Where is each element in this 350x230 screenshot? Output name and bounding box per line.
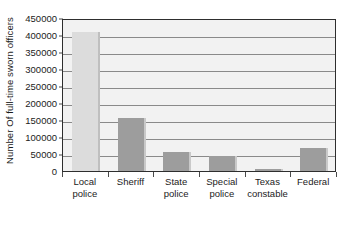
y-tick-label: 150000 [25, 116, 57, 126]
x-tick-label: Statepolice [164, 176, 189, 199]
y-tick-label: 400000 [25, 31, 57, 41]
y-axis-tick-labels: 0500001000001500002000002500003000003500… [18, 14, 60, 180]
y-tick-label: 100000 [25, 133, 57, 143]
x-tick-label-line: police [72, 188, 97, 200]
x-tick-label-line: Special [206, 176, 237, 188]
x-axis-tick-labels: LocalpoliceSheriffStatepoliceSpecialpoli… [62, 176, 336, 216]
x-tick-label: Specialpolice [206, 176, 237, 199]
bar-body [118, 118, 146, 171]
bar[interactable] [255, 169, 283, 171]
x-tick-label-line: constable [247, 188, 288, 200]
bar[interactable] [72, 32, 100, 171]
bar-body [209, 156, 237, 171]
x-tick-label-line: Sheriff [117, 176, 144, 188]
bar[interactable] [209, 156, 237, 171]
y-axis-title: Number Of full-time sworn officers [0, 0, 18, 180]
plot-area [62, 19, 336, 172]
bar[interactable] [163, 152, 191, 171]
bar-body [163, 152, 191, 171]
y-tick-label: 50000 [31, 150, 57, 160]
x-tick-label: Texasconstable [247, 176, 288, 199]
y-tick-label: 250000 [25, 82, 57, 92]
x-tick-label: Federal [297, 176, 329, 188]
bars-layer [63, 20, 335, 171]
bar[interactable] [300, 148, 328, 171]
bar-body [300, 148, 328, 171]
bar-body [72, 32, 100, 171]
y-tick-label: 300000 [25, 65, 57, 75]
y-tick-label: 200000 [25, 99, 57, 109]
bar-chart-screenshot: Number Of full-time sworn officers 05000… [0, 0, 350, 230]
x-tick-label-line: Texas [247, 176, 288, 188]
bar[interactable] [118, 118, 146, 171]
x-tick-label: Sheriff [117, 176, 144, 188]
y-tick-label: 450000 [25, 14, 57, 24]
x-tick-label-line: police [206, 188, 237, 200]
y-tick-label: 350000 [25, 48, 57, 58]
x-tick-label-line: State [164, 176, 189, 188]
bar-body [255, 169, 283, 171]
y-tick-label: 0 [52, 167, 57, 177]
y-axis-title-text: Number Of full-time sworn officers [4, 17, 15, 164]
x-tick-label-line: Local [72, 176, 97, 188]
x-tick-label-line: police [164, 188, 189, 200]
x-tick-mark [336, 172, 337, 177]
x-tick-label: Localpolice [72, 176, 97, 199]
x-tick-label-line: Federal [297, 176, 329, 188]
